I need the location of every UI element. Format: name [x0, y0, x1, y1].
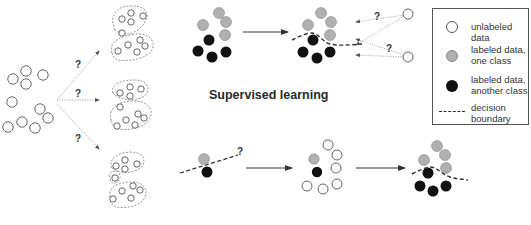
question-mark: ? [386, 43, 392, 54]
unlabeled-point [302, 181, 312, 191]
legend-item-unlabeled: unlabeled data [433, 17, 528, 37]
labeled-point-one-class [325, 30, 336, 41]
legend-label: labeled data, one class [471, 44, 525, 66]
labeled-point-one-class [214, 8, 225, 19]
clustering-1-points [115, 10, 148, 55]
unlabeled-point [403, 9, 413, 19]
labeled-point-one-class [221, 17, 232, 28]
semi-question-mark: ? [237, 146, 243, 157]
supervised-labeled-points-before [193, 8, 232, 63]
labeled-point-one-class [199, 154, 210, 165]
gray-circle-icon [446, 50, 458, 62]
unlabeled-point [318, 184, 328, 194]
legend-label: unlabeled data [471, 21, 528, 43]
unlabeled-point [403, 52, 413, 62]
unlabeled-point [7, 97, 17, 107]
unsupervised-question-marks: ??? [75, 59, 81, 144]
supervised-question-marks: ?? [374, 11, 392, 54]
question-mark: ? [75, 59, 81, 70]
unlabeled-point [38, 70, 48, 80]
unlabeled-point [8, 74, 18, 84]
labeled-point-one-class [316, 8, 327, 19]
labeled-point-one-class [440, 150, 451, 161]
legend-item-labeled-another-class: labeled data, another class [433, 71, 528, 97]
labeled-point-another-class [221, 47, 232, 58]
black-circle-icon [446, 80, 458, 92]
labeled-point-one-class [432, 141, 443, 152]
clustering-2-points [114, 84, 147, 129]
unlabeled-point [21, 66, 31, 76]
semi-final-boundary [412, 167, 468, 180]
legend: unlabeled data labeled data, one class l… [432, 8, 529, 125]
unlabeled-point [332, 150, 342, 160]
labeled-point-another-class [308, 35, 319, 46]
legend-item-decision-boundary: decision boundary [433, 99, 528, 125]
labeled-point-one-class [419, 155, 430, 166]
question-mark: ? [374, 11, 380, 22]
supervised-learning-caption: Supervised learning [209, 88, 328, 102]
labeled-point-another-class [312, 53, 323, 64]
labeled-point-another-class [193, 46, 204, 57]
labeled-point-another-class [202, 167, 213, 178]
unlabeled-point [43, 113, 53, 123]
labeled-point-another-class [415, 181, 426, 192]
semi-step2-points [302, 140, 342, 194]
unlabeled-point [35, 104, 45, 114]
unlabeled-point [3, 122, 13, 132]
clustering-3-points [110, 157, 143, 202]
unlabeled-point [332, 179, 342, 189]
labeled-point-another-class [298, 47, 309, 58]
labeled-point-one-class [309, 154, 319, 164]
unlabeled-point [21, 79, 31, 89]
labeled-point-one-class [198, 20, 209, 31]
unlabeled-point [30, 123, 40, 133]
labeled-point-another-class [441, 181, 452, 192]
legend-item-labeled-one-class: labeled data, one class [433, 41, 528, 67]
unlabeled-source-points [3, 66, 53, 133]
question-mark: ? [75, 88, 81, 99]
labeled-point-one-class [303, 20, 314, 31]
open-circle-icon [446, 21, 458, 33]
legend-label: decision boundary [471, 102, 511, 124]
labeled-point-another-class [207, 52, 218, 63]
unlabeled-point [331, 163, 341, 173]
supervised-new-unlabeled-points [403, 9, 413, 62]
labeled-point-another-class [428, 186, 439, 197]
labeled-point-one-class [220, 30, 231, 41]
question-mark: ? [75, 133, 81, 144]
labeled-point-one-class [441, 163, 452, 174]
semi-step3-points [415, 141, 452, 197]
labeled-point-another-class [325, 47, 336, 58]
labeled-point-one-class [326, 17, 337, 28]
unlabeled-point [17, 117, 27, 127]
unlabeled-point [323, 140, 333, 150]
labeled-point-another-class [204, 35, 215, 46]
labeled-point-another-class [312, 167, 322, 177]
dashed-line-icon [439, 111, 465, 112]
legend-label: labeled data, another class [471, 74, 528, 96]
